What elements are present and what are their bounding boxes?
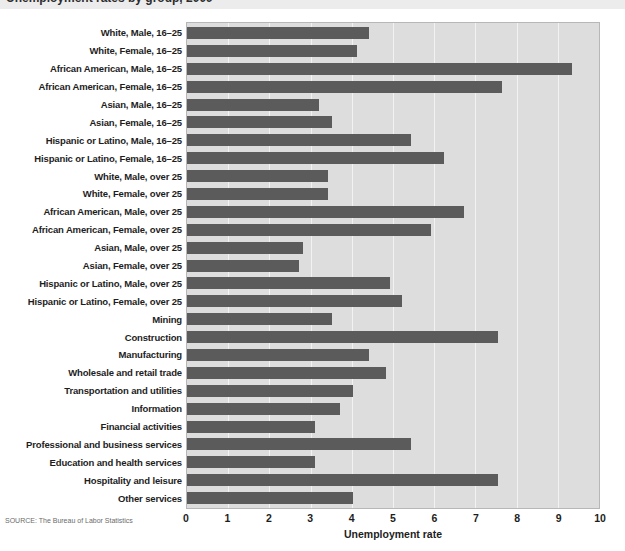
category-label: White, Female, over 25 — [0, 185, 182, 203]
bar-row — [187, 113, 599, 131]
bar — [187, 474, 498, 486]
bar — [187, 421, 315, 433]
category-label: Transportation and utilities — [0, 382, 182, 400]
bar-row — [187, 60, 599, 78]
bar-row — [187, 274, 599, 292]
bar — [187, 116, 332, 128]
category-label: Asian, Female, 16–25 — [0, 113, 182, 131]
bar-row — [187, 489, 599, 507]
bar — [187, 27, 369, 39]
bar-row — [187, 328, 599, 346]
bar-row — [187, 382, 599, 400]
bar — [187, 152, 444, 164]
bar — [187, 242, 303, 254]
category-label: Hispanic or Latino, Male, 16–25 — [0, 131, 182, 149]
category-label: Hispanic or Latino, Female, 16–25 — [0, 149, 182, 167]
bar-row — [187, 346, 599, 364]
x-tick-label: 7 — [473, 512, 479, 524]
category-label: Asian, Female, over 25 — [0, 257, 182, 275]
bar — [187, 81, 502, 93]
bar — [187, 170, 328, 182]
category-label: Manufacturing — [0, 346, 182, 364]
bar — [187, 313, 332, 325]
bar-row — [187, 96, 599, 114]
source-note: SOURCE: The Bureau of Labor Statistics — [5, 517, 133, 524]
bar-row — [187, 221, 599, 239]
bar-row — [187, 203, 599, 221]
bar-row — [187, 167, 599, 185]
x-axis-ticks: 012345678910 — [186, 512, 600, 526]
category-label: White, Male, 16–25 — [0, 24, 182, 42]
bar-rows — [187, 23, 599, 508]
bar-row — [187, 185, 599, 203]
bar — [187, 260, 299, 272]
category-axis-labels: White, Male, 16–25White, Female, 16–25Af… — [0, 23, 182, 508]
page-title: Unemployment rates by group, 2009 — [6, 0, 213, 5]
bar-row — [187, 24, 599, 42]
bar — [187, 63, 572, 75]
chart-title-strip: Unemployment rates by group, 2009 — [0, 0, 625, 9]
x-tick-label: 8 — [514, 512, 520, 524]
category-label: African American, Male, over 25 — [0, 203, 182, 221]
bar — [187, 456, 315, 468]
unemployment-bar-chart: White, Male, 16–25White, Female, 16–25Af… — [0, 9, 625, 551]
category-label: Hispanic or Latino, Female, over 25 — [0, 292, 182, 310]
category-label: Wholesale and retail trade — [0, 364, 182, 382]
category-label: Information — [0, 400, 182, 418]
category-label: White, Female, 16–25 — [0, 42, 182, 60]
bar-row — [187, 471, 599, 489]
bar — [187, 99, 319, 111]
x-tick-label: 6 — [431, 512, 437, 524]
bar-row — [187, 364, 599, 382]
category-label: Hospitality and leisure — [0, 471, 182, 489]
category-label: Construction — [0, 328, 182, 346]
bar — [187, 492, 353, 504]
bar-row — [187, 131, 599, 149]
category-label: African American, Male, 16–25 — [0, 60, 182, 78]
category-label: Hispanic or Latino, Male, over 25 — [0, 274, 182, 292]
category-label: Education and health services — [0, 453, 182, 471]
plot-area — [186, 22, 600, 509]
bar — [187, 277, 390, 289]
bar-row — [187, 453, 599, 471]
bar — [187, 224, 431, 236]
bar-row — [187, 310, 599, 328]
x-tick-label: 1 — [224, 512, 230, 524]
category-label: White, Male, over 25 — [0, 167, 182, 185]
x-tick-label: 10 — [594, 512, 606, 524]
bar — [187, 134, 411, 146]
bar — [187, 206, 464, 218]
bar — [187, 295, 402, 307]
category-label: Financial activities — [0, 418, 182, 436]
x-axis-label: Unemployment rate — [186, 528, 600, 540]
x-tick-label: 9 — [556, 512, 562, 524]
bar-row — [187, 78, 599, 96]
bar-row — [187, 42, 599, 60]
bar — [187, 403, 340, 415]
x-tick-label: 0 — [183, 512, 189, 524]
x-tick-label: 4 — [349, 512, 355, 524]
bar — [187, 385, 353, 397]
category-label: African American, Female, over 25 — [0, 221, 182, 239]
category-label: African American, Female, 16–25 — [0, 78, 182, 96]
category-label: Other services — [0, 489, 182, 507]
bar-row — [187, 149, 599, 167]
bar-row — [187, 292, 599, 310]
bar-row — [187, 435, 599, 453]
x-tick-label: 2 — [266, 512, 272, 524]
bar — [187, 331, 498, 343]
category-label: Mining — [0, 310, 182, 328]
bar-row — [187, 257, 599, 275]
bar-row — [187, 400, 599, 418]
bar-row — [187, 239, 599, 257]
x-tick-label: 3 — [307, 512, 313, 524]
bar — [187, 349, 369, 361]
category-label: Asian, Male, 16–25 — [0, 96, 182, 114]
bar — [187, 188, 328, 200]
bar — [187, 367, 386, 379]
bar — [187, 438, 411, 450]
bar-row — [187, 418, 599, 436]
gridline — [599, 23, 600, 508]
category-label: Professional and business services — [0, 435, 182, 453]
chart-figure: White, Male, 16–25White, Female, 16–25Af… — [0, 9, 625, 551]
